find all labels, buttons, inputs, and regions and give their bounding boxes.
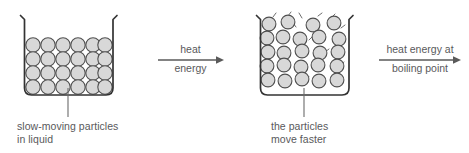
particle — [26, 52, 40, 66]
particle — [56, 66, 70, 80]
particle — [327, 16, 341, 30]
particle — [26, 80, 40, 94]
particle — [260, 31, 274, 45]
particle — [312, 30, 326, 44]
arrow-1-label-bottom: energy — [158, 62, 223, 74]
particle — [71, 80, 85, 94]
particle — [262, 17, 276, 31]
particle — [41, 38, 55, 52]
arrow-2-label-bottom: boiling point — [379, 62, 461, 74]
particle-heating-diagram: slow-moving particlesin liquid the parti… — [0, 0, 469, 153]
beaker-2-caption-line-2: move faster — [271, 133, 326, 145]
particle — [41, 80, 55, 94]
particle — [71, 38, 85, 52]
particle — [311, 58, 325, 72]
beaker-1-group — [21, 16, 118, 118]
particle — [98, 38, 112, 52]
particle — [276, 30, 290, 44]
beaker-2-caption-line-1: the particles — [271, 120, 328, 132]
beaker-2-particles — [260, 15, 346, 88]
particle — [260, 59, 274, 73]
particle — [312, 74, 326, 88]
particle — [98, 52, 112, 66]
particle — [56, 38, 70, 52]
particle — [331, 45, 345, 59]
particle — [26, 66, 40, 80]
particle — [41, 52, 55, 66]
arrow-2-label-top: heat energy at — [379, 43, 461, 55]
beaker-1-particles — [26, 38, 112, 94]
arrow-1-label-top: heat — [158, 43, 223, 55]
particle — [330, 73, 344, 87]
particle — [281, 15, 295, 29]
particle — [98, 80, 112, 94]
beaker-1-caption-line-2: in liquid — [17, 133, 53, 145]
particle — [295, 44, 309, 58]
beaker-2-group — [257, 12, 354, 117]
particle — [56, 52, 70, 66]
particle — [277, 58, 291, 72]
particle — [295, 72, 309, 86]
particle — [98, 66, 112, 80]
beaker-1-caption-line-1: slow-moving particles — [17, 120, 118, 132]
particle — [71, 52, 85, 66]
beaker-2-caption: the particlesmove faster — [271, 120, 328, 145]
particle — [332, 32, 346, 46]
particle — [261, 73, 275, 87]
beaker-1-caption: slow-moving particlesin liquid — [17, 120, 118, 145]
particle — [71, 66, 85, 80]
particle — [261, 45, 275, 59]
particle — [330, 59, 344, 73]
particle — [26, 38, 40, 52]
particle — [41, 66, 55, 80]
particle — [278, 74, 292, 88]
